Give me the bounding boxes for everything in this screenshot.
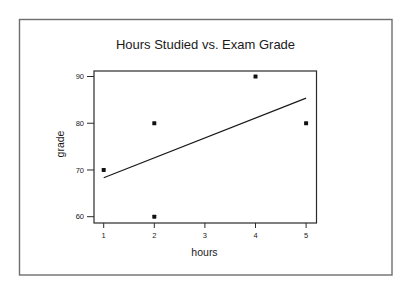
regression-line: [104, 98, 306, 178]
data-point: [254, 75, 258, 79]
plot-area: 60708090 12345: [76, 71, 317, 240]
scatter-chart: Hours Studied vs. Exam Grade 60708090 12…: [0, 0, 411, 291]
x-axis-label: hours: [191, 246, 217, 258]
y-tick-label: 90: [76, 72, 84, 81]
series-layer: [102, 75, 308, 219]
y-tick-label: 60: [76, 212, 84, 221]
x-tick-label: 1: [102, 231, 106, 240]
x-tick-label: 3: [203, 231, 207, 240]
data-point: [152, 215, 156, 219]
y-tick-label: 70: [76, 166, 84, 175]
y-axis: 60708090: [76, 72, 94, 221]
x-tick-label: 5: [304, 231, 308, 240]
x-axis: 12345: [102, 223, 309, 240]
chart-title: Hours Studied vs. Exam Grade: [116, 37, 295, 52]
data-point: [304, 121, 308, 125]
data-point: [152, 121, 156, 125]
data-point: [102, 168, 106, 172]
y-axis-label: grade: [54, 130, 66, 157]
x-tick-label: 2: [152, 231, 156, 240]
plot-frame: [94, 71, 317, 223]
y-tick-label: 80: [76, 119, 84, 128]
x-tick-label: 4: [253, 231, 257, 240]
